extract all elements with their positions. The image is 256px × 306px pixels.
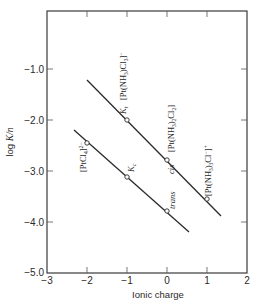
bottom-ticks bbox=[87, 267, 207, 273]
x-tick-label: 0 bbox=[164, 275, 170, 286]
ptnh32cl2-label: [Pt(NH3)2Cl2] bbox=[166, 105, 177, 152]
ptnh3cl3-label: [Pt(NH3)Cl3]− bbox=[118, 52, 129, 100]
left-ticks bbox=[47, 69, 53, 222]
right-ticks bbox=[241, 69, 247, 222]
kc-label: Kc bbox=[126, 163, 137, 173]
cis-label: cis bbox=[166, 164, 176, 174]
y-tick-labels: −1.0 −2.0 −3.0 −4.0 −5.0 bbox=[24, 64, 44, 279]
marker-upper-1 bbox=[205, 197, 209, 201]
marker-upper-0 bbox=[165, 158, 169, 162]
ptnh33cl-label: [Pt(NH3)3Cl−]+ bbox=[203, 144, 214, 196]
marker-lower-minus1 bbox=[125, 175, 129, 179]
data-markers bbox=[85, 118, 209, 213]
x-tick-label: −2 bbox=[81, 275, 93, 286]
ptcl4-label: [PtCl4]2− bbox=[78, 141, 89, 172]
plot-frame bbox=[47, 11, 247, 273]
x-tick-label: 1 bbox=[204, 275, 210, 286]
x-tick-label: 2 bbox=[244, 275, 250, 286]
x-tick-labels: −3 −2 −1 0 1 2 bbox=[41, 275, 250, 286]
trans-label: trans bbox=[167, 191, 177, 209]
kt-label: Kt bbox=[118, 106, 129, 115]
marker-upper-minus1 bbox=[125, 118, 129, 122]
y-tick-label: −2.0 bbox=[24, 115, 44, 126]
y-tick-label: −1.0 bbox=[24, 64, 44, 75]
x-tick-label: −3 bbox=[41, 275, 53, 286]
y-tick-label: −4.0 bbox=[24, 217, 44, 228]
y-tick-label: −3.0 bbox=[24, 166, 44, 177]
marker-lower-minus2 bbox=[85, 141, 89, 145]
top-ticks bbox=[87, 11, 207, 17]
x-tick-label: −1 bbox=[121, 275, 133, 286]
y-axis-title: log K/n bbox=[4, 127, 15, 156]
x-axis-title: Ionic charge bbox=[132, 289, 184, 300]
chart: −1.0 −2.0 −3.0 −4.0 −5.0 −3 −2 −1 0 1 2 … bbox=[0, 0, 256, 306]
series-line-upper bbox=[87, 80, 221, 216]
